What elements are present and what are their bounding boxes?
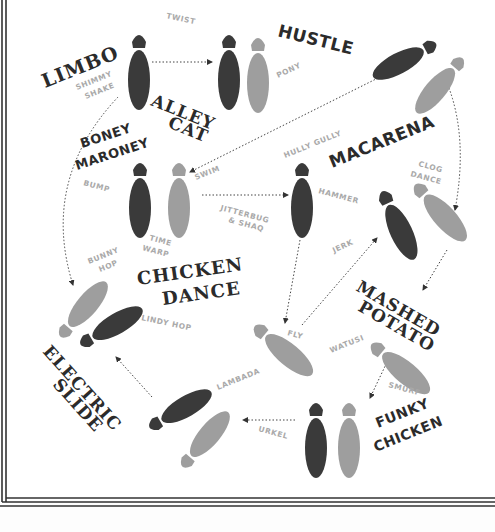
footer-area — [0, 510, 495, 532]
footprint-light-icon — [407, 177, 474, 247]
move-fly: FLY — [286, 328, 304, 341]
dance-hustle: HUSTLE — [276, 20, 356, 58]
move-swim: SWIM — [193, 164, 221, 182]
move-pony: PONY — [275, 61, 302, 80]
footprint-dark-icon — [128, 35, 150, 110]
footprint-dark-icon — [305, 403, 327, 478]
footprint-dark-icon — [129, 163, 151, 238]
move-lambada: LAMBADA — [215, 366, 261, 392]
footprint-dark-icon — [291, 163, 313, 238]
footprint-dark-icon — [368, 34, 441, 86]
footprint-dark-icon — [218, 35, 240, 110]
footprint-light-icon — [168, 163, 190, 238]
footprint-dark-icon — [372, 187, 424, 264]
move-twist: TWIST — [166, 11, 197, 26]
move-bump: BUMP — [82, 178, 111, 194]
move-urkel: URKEL — [257, 424, 289, 441]
footprint-light-icon — [247, 38, 269, 113]
move-lindy-hop: LINDY HOP — [141, 313, 193, 332]
move-hammer: HAMMER — [317, 186, 359, 205]
footprint-light-icon — [338, 403, 360, 478]
move-watusi: WATUSI — [328, 333, 365, 355]
dance-step-diagram: LIMBO HUSTLE ALLEY CAT BONEY MARONEY MAC… — [0, 0, 495, 532]
move-jerk: JERK — [330, 237, 355, 255]
